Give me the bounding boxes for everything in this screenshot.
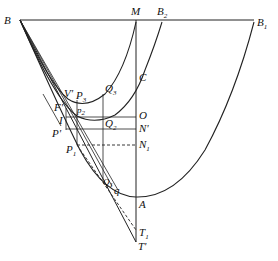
label-M: M	[130, 5, 141, 17]
label-O: O	[139, 109, 147, 121]
label-B: B	[4, 14, 11, 26]
label-P2: p2	[76, 105, 86, 117]
tangent-P1-T1	[77, 145, 136, 230]
label-C: C	[139, 71, 147, 83]
tangent-B-T-prime	[20, 20, 136, 242]
label-B2: B2	[157, 5, 168, 20]
label-Q3: Q3	[105, 82, 117, 97]
label-Q2: Q2	[105, 117, 117, 132]
label-B1: B1	[257, 16, 267, 31]
label-P-prime: P'	[51, 127, 62, 139]
label-F-prime: F'	[53, 101, 64, 113]
label-T1: T1	[139, 226, 149, 241]
label-A: A	[138, 198, 146, 210]
label-N1: N1	[138, 138, 150, 153]
line-B-Q1	[20, 20, 112, 186]
label-N-prime: N'	[138, 122, 149, 134]
label-P1: P1	[65, 143, 76, 158]
label-q: q	[114, 184, 120, 196]
geometry-diagram: B M B2 B1 C O N' N1 A T1 T' Q3 V' P3 F' …	[0, 0, 278, 261]
label-V-prime: V'	[64, 87, 74, 99]
label-T-prime: T'	[138, 240, 147, 252]
